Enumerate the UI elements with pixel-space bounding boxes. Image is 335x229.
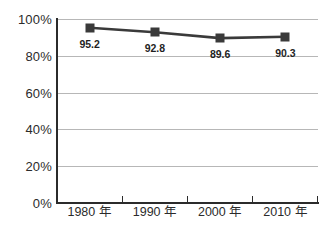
data-point-marker — [85, 23, 94, 32]
y-axis-tick-labels: 100% 80% 60% 40% 20% 0% — [0, 0, 52, 229]
y-axis-tick-label: 80% — [6, 50, 52, 63]
x-axis-tick — [252, 196, 253, 203]
data-point-label: 90.3 — [260, 48, 310, 59]
y-axis-tick-label: 20% — [6, 160, 52, 173]
data-point-marker — [281, 32, 290, 41]
gridline-20 — [57, 166, 318, 167]
gridline-60 — [57, 93, 318, 94]
data-point-label: 89.6 — [195, 49, 245, 60]
data-point-label: 92.8 — [130, 43, 180, 54]
data-point-marker — [216, 34, 225, 43]
gridline-100 — [57, 19, 318, 20]
x-axis-tick-label: 1990 年 — [120, 206, 190, 220]
gridline-40 — [57, 129, 318, 130]
y-axis-tick-label: 60% — [6, 87, 52, 100]
data-point-marker — [150, 28, 159, 37]
x-axis-tick-label: 1980 年 — [55, 206, 125, 220]
x-axis-tick — [187, 196, 188, 203]
x-axis-tick — [57, 196, 58, 203]
x-axis-tick-label: 2000 年 — [185, 206, 255, 220]
x-axis-tick — [122, 196, 123, 203]
x-axis-tick-label: 2010 年 — [250, 206, 320, 220]
line-chart: 100% 80% 60% 40% 20% 0% 95.2 92.8 89.6 9… — [0, 0, 335, 229]
y-axis-tick-label: 100% — [6, 13, 52, 26]
x-axis-tick — [317, 196, 318, 203]
data-point-label: 95.2 — [65, 39, 115, 50]
y-axis-tick-label: 40% — [6, 123, 52, 136]
y-axis-tick-label: 0% — [6, 197, 52, 210]
y-axis-line — [56, 18, 58, 204]
